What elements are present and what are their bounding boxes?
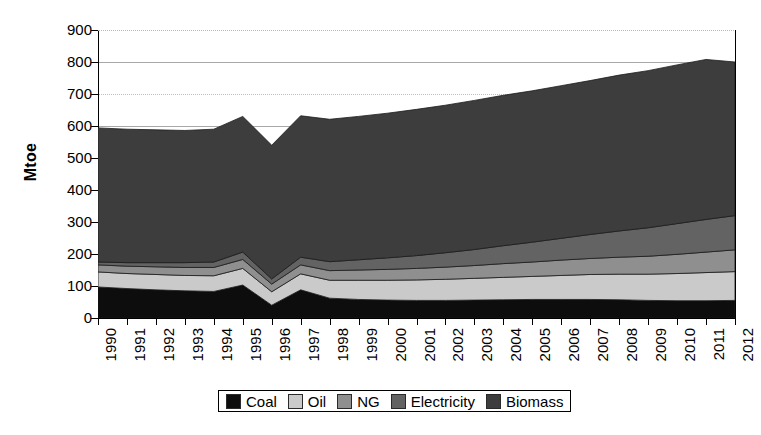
x-tick-mark (243, 318, 244, 325)
legend-label: Coal (246, 394, 277, 409)
x-tick-mark (98, 318, 99, 325)
x-tick-mark (185, 318, 186, 325)
legend-swatch-icon (288, 394, 303, 409)
x-tick-mark (214, 318, 215, 325)
x-tick-mark (156, 318, 157, 325)
x-tick-label: 1996 (278, 328, 292, 388)
y-tick-mark (91, 94, 98, 95)
legend-label: Biomass (506, 394, 564, 409)
x-tick-label: 2004 (509, 328, 523, 388)
x-tick-mark (677, 318, 678, 325)
x-tick-label: 2000 (394, 328, 408, 388)
x-tick-mark (590, 318, 591, 325)
x-tick-label: 1998 (336, 328, 350, 388)
x-tick-label: 1994 (220, 328, 234, 388)
x-tick-mark (619, 318, 620, 325)
y-tick-mark (91, 318, 98, 319)
y-tick-mark (91, 158, 98, 159)
x-tick-mark (648, 318, 649, 325)
legend-label: NG (357, 394, 380, 409)
y-tick-mark (91, 62, 98, 63)
x-tick-mark (330, 318, 331, 325)
x-tick-mark (532, 318, 533, 325)
legend-item[interactable]: Electricity (391, 394, 475, 409)
legend-swatch-icon (226, 394, 241, 409)
y-tick-mark (91, 190, 98, 191)
x-tick-label: 1999 (365, 328, 379, 388)
legend-label: Electricity (411, 394, 475, 409)
x-tick-label: 2009 (654, 328, 668, 388)
x-tick-label: 1995 (249, 328, 263, 388)
stacked-area-chart: Mtoe 9008007006005004003002001000 199019… (0, 0, 761, 435)
x-tick-mark (359, 318, 360, 325)
x-tick-label: 2011 (712, 328, 726, 388)
x-tick-label: 2001 (423, 328, 437, 388)
y-tick-mark (91, 126, 98, 127)
x-tick-label: 1992 (162, 328, 176, 388)
y-tick-mark (91, 254, 98, 255)
x-tick-mark (127, 318, 128, 325)
y-tick-mark (91, 222, 98, 223)
x-tick-label: 2008 (625, 328, 639, 388)
x-axis-tick-labels: 1990199119921993199419951996199719981999… (0, 0, 761, 435)
legend-swatch-icon (391, 394, 406, 409)
legend-item[interactable]: Coal (226, 394, 277, 409)
x-tick-mark (735, 318, 736, 325)
x-tick-label: 2002 (451, 328, 465, 388)
x-tick-label: 2003 (480, 328, 494, 388)
chart-legend: CoalOilNGElectricityBiomass (218, 390, 571, 412)
x-tick-mark (445, 318, 446, 325)
x-tick-mark (301, 318, 302, 325)
x-tick-mark (272, 318, 273, 325)
x-tick-mark (706, 318, 707, 325)
legend-item[interactable]: Oil (288, 394, 326, 409)
legend-swatch-icon (486, 394, 501, 409)
x-tick-label: 1993 (191, 328, 205, 388)
legend-item[interactable]: NG (337, 394, 380, 409)
x-tick-label: 2005 (538, 328, 552, 388)
legend-swatch-icon (337, 394, 352, 409)
y-tick-mark (91, 30, 98, 31)
x-tick-label: 1991 (133, 328, 147, 388)
x-tick-label: 1990 (104, 328, 118, 388)
legend-item[interactable]: Biomass (486, 394, 564, 409)
x-tick-label: 2010 (683, 328, 697, 388)
x-tick-mark (561, 318, 562, 325)
x-tick-label: 1997 (307, 328, 321, 388)
x-tick-mark (503, 318, 504, 325)
x-tick-mark (474, 318, 475, 325)
x-tick-mark (417, 318, 418, 325)
legend-label: Oil (308, 394, 326, 409)
x-tick-mark (388, 318, 389, 325)
x-tick-label: 2007 (596, 328, 610, 388)
x-tick-label: 2012 (741, 328, 755, 388)
y-tick-mark (91, 286, 98, 287)
x-tick-label: 2006 (567, 328, 581, 388)
